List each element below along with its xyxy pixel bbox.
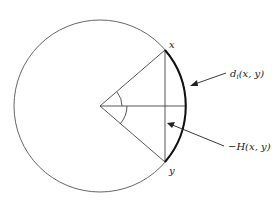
arrow-to-chord-head [167, 122, 175, 128]
label-x: x [169, 39, 175, 50]
label-chord: −H(x, y) [228, 141, 271, 152]
circle-diagram: x y di(x, y) −H(x, y) [0, 0, 277, 207]
radius-to-y [100, 106, 165, 162]
arrow-to-arc-head [190, 80, 198, 86]
angle-arc-lower [120, 106, 127, 124]
label-y: y [168, 165, 175, 176]
angle-arc-upper [117, 92, 122, 106]
radius-to-x [100, 50, 165, 106]
label-arc-distance: di(x, y) [230, 68, 264, 81]
